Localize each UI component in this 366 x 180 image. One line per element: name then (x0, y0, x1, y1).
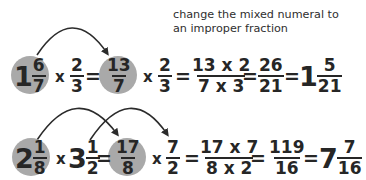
equals-sign: = (96, 147, 112, 169)
equals-sign: = (250, 147, 266, 169)
whole-part: 7 (319, 145, 337, 172)
arrow-row2-b (90, 108, 167, 140)
whole-part: 1 (299, 63, 317, 90)
improper-fraction-row2: 17 8 (115, 139, 141, 177)
multiply-sign: x (56, 150, 66, 168)
whole-part: 3 (68, 145, 86, 172)
fraction: 6 7 (32, 57, 46, 95)
answer-row2: 7 7 16 (319, 139, 362, 177)
mixed-number-row1: 1 6 7 (14, 57, 46, 95)
fraction: 1 8 (33, 139, 47, 177)
equals-sign: = (175, 65, 191, 87)
fraction-row1-b: 2 3 (158, 57, 172, 95)
multiply-sign: x (152, 150, 162, 168)
fraction-row1-a: 2 3 (70, 57, 84, 95)
whole-part: 1 (14, 63, 32, 90)
equals-sign: = (85, 65, 101, 87)
equals-sign: = (242, 65, 258, 87)
arrow-row2-a (37, 108, 117, 140)
fraction: 7 16 (337, 139, 363, 177)
equals-sign: = (184, 147, 200, 169)
result-fraction-row2: 119 16 (268, 139, 306, 177)
fraction: 5 21 (317, 57, 343, 95)
mixed-number-row2-b: 3 1 2 (68, 139, 100, 177)
mixed-number-row2-a: 2 1 8 (15, 139, 47, 177)
improper-fraction-row1: 13 7 (106, 57, 132, 95)
multiply-sign: x (55, 68, 65, 86)
fraction-row2: 7 2 (166, 139, 180, 177)
whole-part: 2 (15, 145, 33, 172)
multiply-sign: x (143, 68, 153, 86)
equals-sign: = (284, 65, 300, 87)
equals-sign: = (303, 147, 319, 169)
arrow-row1 (37, 28, 107, 55)
result-fraction-row1: 26 21 (258, 57, 284, 95)
answer-row1: 1 5 21 (299, 57, 342, 95)
